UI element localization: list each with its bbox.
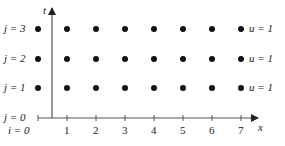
row-label-j1: j = 1 (2, 81, 25, 93)
row-label-j3: j = 3 (2, 22, 26, 34)
boundary-label: u = 1 (249, 52, 273, 64)
grid-points (35, 26, 244, 91)
boundary-label: u = 1 (249, 22, 273, 34)
x-tick-label: 3 (122, 124, 128, 136)
finite-difference-grid-diagram: x t 1 2 3 4 5 6 7 i = 0 j = 0 j = 3 j = … (0, 0, 285, 146)
t-axis-label: t (43, 4, 47, 16)
x-tick-label: 1 (64, 124, 70, 136)
grid-svg: x t 1 2 3 4 5 6 7 i = 0 j = 0 j = 3 j = … (0, 0, 285, 146)
row-label-j2: j = 2 (2, 52, 26, 64)
boundary-label: u = 1 (249, 81, 273, 93)
x-axis-label: x (257, 121, 263, 133)
origin-label-i: i = 0 (8, 124, 30, 136)
origin-label-j: j = 0 (2, 111, 26, 123)
x-tick-label: 6 (209, 124, 215, 136)
x-tick-label: 2 (93, 124, 99, 136)
x-tick-label: 4 (151, 124, 157, 136)
x-tick-label: 5 (180, 124, 186, 136)
x-tick-label: 7 (238, 124, 244, 136)
